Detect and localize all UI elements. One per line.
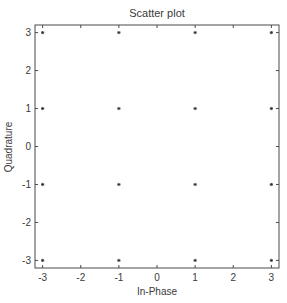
x-tick-label: -1 xyxy=(114,272,123,283)
y-tick-label: 1 xyxy=(25,103,31,114)
chart-title: Scatter plot xyxy=(129,7,185,19)
y-tick-label: -1 xyxy=(22,179,31,190)
x-tick-label: -2 xyxy=(76,272,85,283)
x-tick-label: 3 xyxy=(269,272,275,283)
x-axis-label: In-Phase xyxy=(137,286,177,297)
y-axis-label: Quadrature xyxy=(3,121,14,172)
y-tick-label: 3 xyxy=(25,27,31,38)
x-tick-label: -3 xyxy=(38,272,47,283)
scatter-plot-figure: Scatter plot -3-2-10123 -3-2-10123 In-Ph… xyxy=(0,0,287,303)
x-tick-label: 2 xyxy=(230,272,236,283)
y-tick-label: -3 xyxy=(22,255,31,266)
y-tick-label: 2 xyxy=(25,65,31,76)
x-tick-label: 0 xyxy=(154,272,160,283)
axes-box xyxy=(35,25,279,268)
x-tick-label: 1 xyxy=(192,272,198,283)
y-tick-label: -2 xyxy=(22,217,31,228)
plot-canvas: Scatter plot -3-2-10123 -3-2-10123 In-Ph… xyxy=(0,0,287,303)
y-tick-label: 0 xyxy=(25,141,31,152)
